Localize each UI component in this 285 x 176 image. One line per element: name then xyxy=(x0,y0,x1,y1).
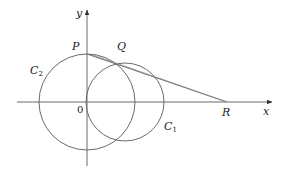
y-axis-label: y xyxy=(75,7,83,20)
c1-sub: 1 xyxy=(172,126,176,134)
c2-sub: 2 xyxy=(38,70,42,78)
x-axis-label: x xyxy=(263,105,270,118)
origin-label: 0 xyxy=(77,104,83,115)
point-r-label: R xyxy=(221,106,230,119)
point-p-label: P xyxy=(71,40,80,53)
circle-c2-label: C2 xyxy=(30,64,43,78)
line-qr xyxy=(93,55,227,102)
diagram-canvas: y x 0 P Q R C2 C1 xyxy=(0,0,285,176)
point-q-label: Q xyxy=(117,40,126,53)
circle-c1-label: C1 xyxy=(164,120,177,134)
